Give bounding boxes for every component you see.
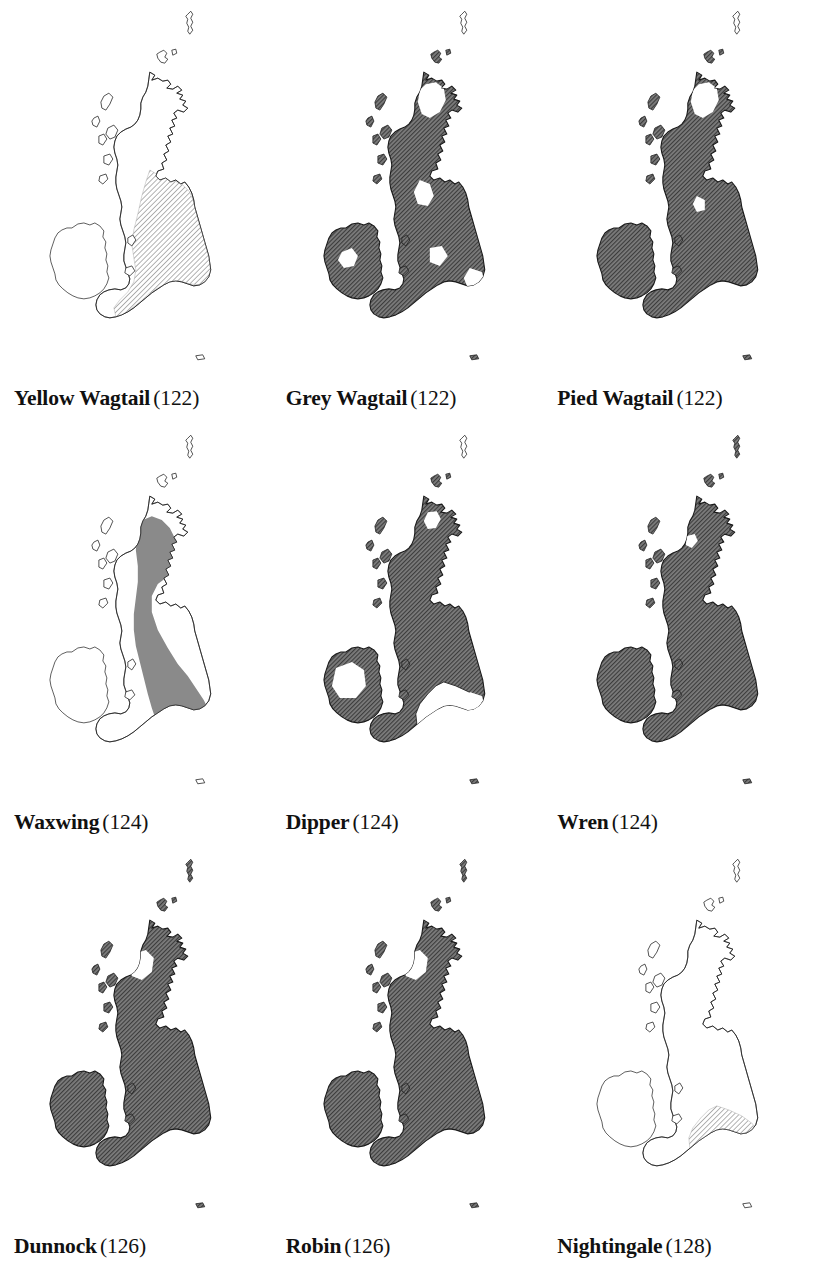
map-figure-wren xyxy=(547,424,821,812)
page-reference: (126) xyxy=(341,1234,390,1258)
map-grid: Yellow Wagtail(122) Grey Wagtail(122) Pi… xyxy=(0,0,821,1272)
coastline-great-britain xyxy=(643,496,758,742)
island-islay xyxy=(99,1022,108,1032)
island-orkney-b xyxy=(172,49,177,55)
species-name: Nightingale xyxy=(557,1234,662,1258)
island-isle-of-mull xyxy=(104,578,113,589)
map-cell-wren: Wren(124) xyxy=(547,424,821,848)
island-outer-hebrides-m xyxy=(639,116,647,127)
map-cell-dipper: Dipper(124) xyxy=(274,424,548,848)
island-shetland xyxy=(459,435,466,458)
island-outer-hebrides-m xyxy=(92,964,100,975)
island-islay xyxy=(99,174,108,184)
page-reference: (126) xyxy=(97,1234,146,1258)
map-caption-pied-wagtail: Pied Wagtail(122) xyxy=(557,388,722,410)
island-orkney-a xyxy=(157,474,168,487)
island-orkney-a xyxy=(157,898,168,911)
map-cell-pied-wagtail: Pied Wagtail(122) xyxy=(547,0,821,424)
island-isle-of-wight xyxy=(743,1203,752,1208)
species-name: Dunnock xyxy=(14,1234,97,1258)
island-outer-hebrides-n xyxy=(101,93,113,110)
island-orkney-a xyxy=(430,898,441,911)
map-caption-wren: Wren(124) xyxy=(557,812,657,834)
island-outer-hebrides-m xyxy=(366,540,374,551)
map-caption-yellow-wagtail: Yellow Wagtail(122) xyxy=(14,388,199,410)
island-isle-of-wight xyxy=(469,355,478,360)
coastline-ireland xyxy=(597,223,656,299)
distribution-map-yellow-wagtail xyxy=(0,0,274,388)
island-outer-hebrides-s xyxy=(646,558,654,569)
map-cell-grey-wagtail: Grey Wagtail(122) xyxy=(274,0,548,424)
island-orkney-b xyxy=(445,49,450,55)
island-isle-of-mull xyxy=(104,154,113,165)
island-shetland xyxy=(459,859,466,882)
island-outer-hebrides-s xyxy=(99,558,107,569)
map-cell-dunnock: Dunnock(126) xyxy=(0,848,274,1272)
island-isle-of-mull xyxy=(378,154,387,165)
island-shetland xyxy=(186,859,193,882)
coastline-ireland xyxy=(597,1071,656,1147)
island-islay xyxy=(373,1022,382,1032)
map-caption-dipper: Dipper(124) xyxy=(286,812,399,834)
island-outer-hebrides-s xyxy=(646,134,654,145)
species-name: Dipper xyxy=(286,810,350,834)
page-reference: (122) xyxy=(150,386,199,410)
distribution-map-wren xyxy=(547,424,821,812)
island-shetland xyxy=(733,435,740,458)
coastline-great-britain xyxy=(370,920,485,1166)
distribution-map-grey-wagtail xyxy=(274,0,548,388)
coastline-ireland xyxy=(50,647,109,723)
coastline-ireland xyxy=(324,1071,383,1147)
island-orkney-b xyxy=(445,473,450,479)
island-outer-hebrides-n xyxy=(375,517,387,534)
island-islay xyxy=(646,174,655,184)
island-orkney-b xyxy=(172,897,177,903)
page-reference: (122) xyxy=(407,386,456,410)
island-islay xyxy=(373,174,382,184)
species-name: Yellow Wagtail xyxy=(14,386,150,410)
map-figure-waxwing xyxy=(0,424,274,812)
distribution-map-dunnock xyxy=(0,848,274,1236)
island-isle-of-wight xyxy=(743,779,752,784)
island-isle-of-skye xyxy=(653,973,665,987)
island-orkney-a xyxy=(430,474,441,487)
island-isle-of-wight xyxy=(196,779,205,784)
island-orkney-b xyxy=(172,473,177,479)
island-outer-hebrides-m xyxy=(639,540,647,551)
island-outer-hebrides-n xyxy=(375,941,387,958)
distribution-map-waxwing xyxy=(0,424,274,812)
island-isle-of-mull xyxy=(378,578,387,589)
island-shetland xyxy=(186,435,193,458)
island-orkney-b xyxy=(719,473,724,479)
coastline-ireland xyxy=(50,1071,109,1147)
distribution-map-dipper xyxy=(274,424,548,812)
island-outer-hebrides-m xyxy=(92,540,100,551)
map-caption-grey-wagtail: Grey Wagtail(122) xyxy=(286,388,457,410)
map-figure-pied-wagtail xyxy=(547,0,821,388)
island-outer-hebrides-s xyxy=(373,982,381,993)
island-outer-hebrides-n xyxy=(101,941,113,958)
island-islay xyxy=(99,598,108,608)
island-isle-of-wight xyxy=(469,779,478,784)
island-isle-of-wight xyxy=(469,1203,478,1208)
island-isle-of-skye xyxy=(106,549,118,563)
island-isle-of-wight xyxy=(743,355,752,360)
island-outer-hebrides-m xyxy=(639,964,647,975)
map-figure-nightingale xyxy=(547,848,821,1236)
map-cell-yellow-wagtail: Yellow Wagtail(122) xyxy=(0,0,274,424)
map-cell-nightingale: Nightingale(128) xyxy=(547,848,821,1272)
map-caption-waxwing: Waxwing(124) xyxy=(14,812,148,834)
island-islay xyxy=(646,598,655,608)
page-reference: (122) xyxy=(673,386,722,410)
map-caption-dunnock: Dunnock(126) xyxy=(14,1236,146,1258)
distribution-map-robin xyxy=(274,848,548,1236)
page-reference: (124) xyxy=(350,810,399,834)
distribution-map-nightingale xyxy=(547,848,821,1236)
island-outer-hebrides-m xyxy=(366,964,374,975)
species-name: Robin xyxy=(286,1234,342,1258)
island-isle-of-skye xyxy=(106,125,118,139)
island-isle-of-mull xyxy=(651,578,660,589)
species-name: Wren xyxy=(557,810,608,834)
page-reference: (128) xyxy=(663,1234,712,1258)
island-outer-hebrides-n xyxy=(101,517,113,534)
